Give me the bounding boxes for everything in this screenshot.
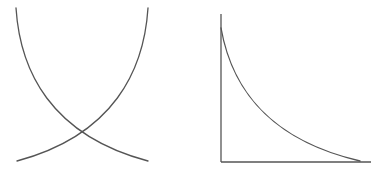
decay-curve — [221, 28, 360, 161]
diagram-canvas — [0, 0, 388, 173]
left-panel — [16, 8, 148, 161]
increasing-curve — [17, 8, 148, 161]
right-panel — [221, 14, 371, 162]
decreasing-curve — [16, 8, 148, 161]
